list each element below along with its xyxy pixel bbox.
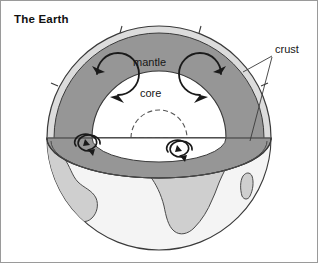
leader-line-upper bbox=[243, 56, 272, 72]
plate-break-2 bbox=[199, 26, 201, 33]
label-core: core bbox=[140, 87, 161, 99]
earth-diagram-page: The Earth bbox=[0, 0, 319, 264]
label-crust: crust bbox=[275, 43, 299, 55]
label-mantle: mantle bbox=[133, 56, 166, 68]
plate-break-3 bbox=[51, 83, 58, 86]
earth-cutaway-diagram bbox=[0, 0, 319, 264]
continent-edge-sliver bbox=[34, 140, 45, 167]
